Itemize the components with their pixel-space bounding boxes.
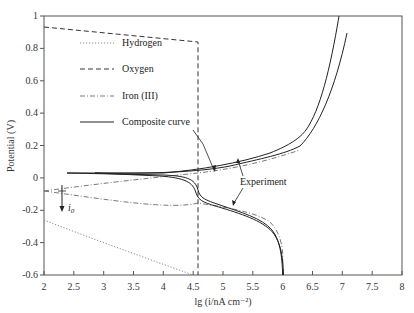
- i0-label: i0: [68, 202, 75, 215]
- series-oxygen: [44, 27, 198, 275]
- svg-text:3.5: 3.5: [127, 281, 140, 292]
- plot-frame: [44, 16, 402, 275]
- svg-text:-0.6: -0.6: [22, 269, 38, 280]
- experiment-label: Experiment: [240, 176, 287, 187]
- svg-text:7: 7: [340, 281, 345, 292]
- svg-text:0: 0: [33, 172, 38, 183]
- svg-text:0.6: 0.6: [26, 75, 39, 86]
- legend-composite: Composite curve: [122, 116, 191, 127]
- svg-text:5.5: 5.5: [247, 281, 260, 292]
- svg-text:0.4: 0.4: [26, 107, 39, 118]
- svg-text:2.5: 2.5: [68, 281, 81, 292]
- series-experiment-cathodic: [95, 173, 284, 275]
- x-axis: [44, 271, 402, 275]
- series-hydrogen: [44, 220, 193, 275]
- svg-text:6.5: 6.5: [306, 281, 319, 292]
- series-composite-cathodic: [67, 173, 283, 275]
- legend-iron: Iron (III): [122, 90, 158, 102]
- series-iron-cathodic: [44, 191, 283, 275]
- svg-text:0.2: 0.2: [26, 140, 39, 151]
- series-composite-anodic: [67, 16, 339, 173]
- svg-text:1: 1: [33, 10, 38, 21]
- legend: Hydrogen Oxygen Iron (III) Composite cur…: [80, 37, 191, 127]
- svg-text:3: 3: [101, 281, 106, 292]
- series-experiment-anodic: [95, 33, 347, 173]
- arrowhead-icon: [236, 158, 240, 163]
- legend-oxygen: Oxygen: [122, 63, 154, 74]
- svg-text:4.5: 4.5: [187, 281, 200, 292]
- chart: 1 0.8 0.6 0.4 0.2 0 -0.2 -0.4 -0.6 2 2.5…: [0, 0, 414, 313]
- experiment-arrow-down: [234, 188, 243, 203]
- arrowhead-icon: [60, 206, 65, 212]
- x-axis-label: lg (i/nA cm⁻²): [194, 296, 251, 308]
- y-axis-label: Potential (V): [5, 120, 17, 172]
- svg-text:-0.4: -0.4: [22, 237, 38, 248]
- svg-text:4: 4: [161, 281, 166, 292]
- x-tick-labels: 2 2.5 3 3.5 4 4.5 5 5.5 6 6.5 7 7.5 8: [42, 281, 405, 292]
- y-axis: [40, 16, 44, 275]
- svg-text:5: 5: [221, 281, 226, 292]
- svg-text:0.8: 0.8: [26, 42, 39, 53]
- legend-hydrogen: Hydrogen: [122, 37, 162, 48]
- svg-text:6: 6: [280, 281, 285, 292]
- svg-text:2: 2: [42, 281, 47, 292]
- svg-text:8: 8: [400, 281, 405, 292]
- svg-text:-0.2: -0.2: [22, 204, 38, 215]
- svg-text:7.5: 7.5: [366, 281, 379, 292]
- y-tick-labels: 1 0.8 0.6 0.4 0.2 0 -0.2 -0.4 -0.6: [22, 10, 38, 280]
